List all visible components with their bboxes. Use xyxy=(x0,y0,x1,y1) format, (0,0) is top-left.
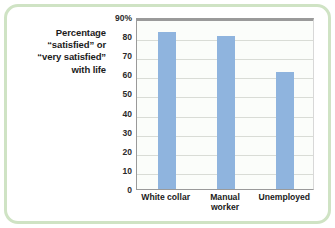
y-axis-caption-line-2: “satisfied” or xyxy=(14,39,106,51)
y-axis-tick-label: 10 xyxy=(123,167,132,176)
bar xyxy=(158,32,176,189)
y-axis-caption: Percentage “satisfied” or “very satisfie… xyxy=(14,27,106,76)
y-axis-tick-label: 0 xyxy=(127,186,132,195)
x-axis-tick-label: Manual worker xyxy=(195,192,254,213)
x-axis-tick-label: White collar xyxy=(136,192,195,202)
y-axis-caption-line-3: “very satisfied” xyxy=(14,51,106,63)
y-axis-tick-label: 20 xyxy=(123,148,132,157)
x-axis-tick-label: Unemployed xyxy=(255,192,314,202)
bar xyxy=(217,36,235,189)
chart-figure: Percentage “satisfied” or “very satisfie… xyxy=(0,0,335,228)
y-axis-tick-labels: 0102030405060708090% xyxy=(108,18,134,190)
y-axis-tick-label: 70 xyxy=(123,52,132,61)
y-axis-tick-label: 30 xyxy=(123,128,132,137)
y-axis-tick-label: 40 xyxy=(123,109,132,118)
y-axis-tick-label: 80 xyxy=(123,33,132,42)
plot-area xyxy=(136,18,314,190)
y-axis-caption-line-4: with life xyxy=(14,64,106,76)
plot-wrapper: 0102030405060708090% xyxy=(108,18,314,190)
y-axis-tick-label: 90% xyxy=(115,14,132,23)
bar xyxy=(276,72,294,189)
y-axis-tick-label: 60 xyxy=(123,71,132,80)
y-axis-tick-label: 50 xyxy=(123,90,132,99)
x-axis-tick-labels: White collarManual workerUnemployed xyxy=(136,192,314,224)
y-axis-caption-line-1: Percentage xyxy=(14,27,106,39)
